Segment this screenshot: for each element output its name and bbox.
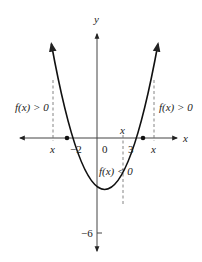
- middle-negative-label: f(x) < 0: [99, 165, 133, 178]
- x-axis-label: x: [182, 132, 188, 144]
- left-marker-x-label: x: [49, 143, 55, 155]
- tick-label-zero: 0: [102, 143, 108, 155]
- right-marker-x-label: x: [150, 143, 156, 155]
- y-axis-label: y: [93, 13, 99, 25]
- root-point-3: [141, 136, 146, 141]
- tick-label-neg2: −2: [70, 143, 82, 155]
- root-point-neg2: [65, 136, 70, 141]
- tick-label-three: 3: [128, 143, 134, 155]
- left-positive-label: f(x) > 0: [15, 101, 49, 114]
- right-positive-label: f(x) > 0: [159, 101, 193, 114]
- tick-label-neg6: −6: [81, 227, 93, 239]
- middle-marker-x-label: x: [119, 124, 125, 136]
- parabola-sign-diagram: y x −2 0 3 −6 x x x f(x) > 0 f(x) > 0 f(…: [0, 0, 202, 262]
